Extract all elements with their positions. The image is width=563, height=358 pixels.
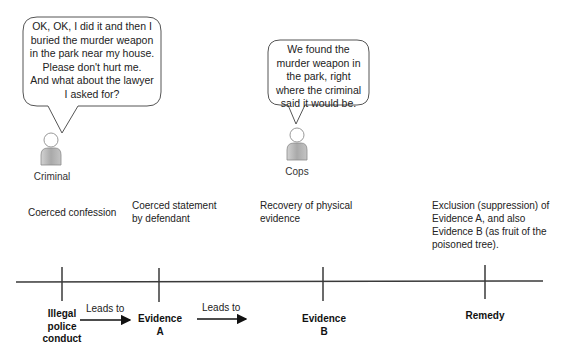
criminal-person-icon bbox=[41, 133, 61, 165]
step-description-exclusion: Exclusion (suppression) of Evidence A, a… bbox=[432, 199, 549, 251]
edge-label-leads-to-2: Leads to bbox=[202, 302, 240, 313]
step-description-coerced-confession: Coerced confession bbox=[28, 206, 116, 219]
criminal-label: Criminal bbox=[22, 171, 82, 182]
cops-quote: We found the murder weapon in the park, … bbox=[270, 43, 367, 111]
node-illegal-police-conduct: Illegal police conduct bbox=[37, 308, 87, 346]
node-remedy: Remedy bbox=[455, 310, 515, 323]
cops-person-icon bbox=[287, 128, 307, 160]
cops-label: Cops bbox=[272, 166, 322, 177]
step-description-recovery: Recovery of physical evidence bbox=[260, 199, 352, 225]
criminal-quote: OK, OK, I did it and then I buried the m… bbox=[27, 20, 157, 101]
node-evidence-a: Evidence A bbox=[133, 313, 187, 338]
node-evidence-b: Evidence B bbox=[297, 313, 351, 338]
timeline bbox=[16, 265, 543, 302]
edge-label-leads-to-1: Leads to bbox=[86, 303, 124, 314]
step-description-coerced-statement: Coerced statement by defendant bbox=[132, 199, 217, 225]
